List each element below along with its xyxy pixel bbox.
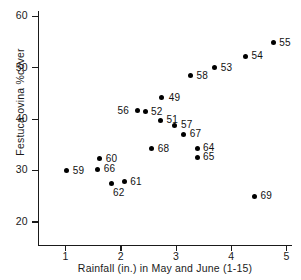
y-axis-title: Festuca ovina %cover	[14, 42, 26, 162]
data-point-label-53: 53	[221, 62, 233, 73]
data-point-label-69: 69	[260, 190, 272, 201]
data-point-68	[149, 146, 154, 151]
data-point-label-55: 55	[279, 37, 291, 48]
y-tick-label-20: 20	[2, 215, 28, 227]
y-axis-line	[38, 11, 39, 246]
x-axis-title: Rainfall (in.) in May and June (1-15)	[38, 262, 292, 274]
data-point-label-60: 60	[106, 153, 118, 164]
data-point-56	[135, 108, 140, 113]
data-point-61	[122, 179, 127, 184]
data-point-label-61: 61	[130, 176, 142, 187]
y-tick-label-30: 30	[2, 163, 28, 175]
x-tick-label-1: 1	[56, 250, 76, 262]
data-point-51	[158, 118, 163, 123]
data-point-57	[172, 123, 177, 128]
data-point-label-62: 62	[113, 187, 125, 198]
data-point-67	[181, 132, 186, 137]
data-point-58	[188, 73, 193, 78]
data-point-label-65: 65	[203, 151, 215, 162]
data-point-53	[212, 65, 217, 70]
x-tick-label-2: 2	[111, 250, 131, 262]
y-tick-30	[32, 170, 38, 171]
data-point-66	[95, 167, 100, 172]
data-point-label-59: 59	[73, 165, 85, 176]
data-point-52	[143, 109, 148, 114]
data-point-label-67: 67	[190, 128, 202, 139]
x-axis-line	[38, 245, 292, 246]
y-tick-60	[32, 16, 38, 17]
data-point-55	[271, 40, 276, 45]
y-tick-label-60: 60	[2, 9, 28, 21]
data-point-label-52: 52	[151, 106, 163, 117]
data-point-64	[195, 146, 200, 151]
data-point-label-56: 56	[117, 105, 129, 116]
data-point-label-58: 58	[196, 70, 208, 81]
plot-area: 2030405060 12345 59606662615652685149576…	[0, 0, 301, 280]
data-point-69	[252, 194, 257, 199]
y-tick-40	[32, 119, 38, 120]
data-point-49	[159, 95, 164, 100]
data-point-62	[109, 181, 114, 186]
data-point-label-54: 54	[252, 50, 264, 61]
y-tick-20	[32, 221, 38, 222]
data-point-65	[195, 155, 200, 160]
x-tick-label-5: 5	[276, 250, 296, 262]
data-point-59	[64, 168, 69, 173]
x-tick-label-4: 4	[221, 250, 241, 262]
data-point-label-68: 68	[158, 143, 170, 154]
data-point-label-49: 49	[169, 92, 181, 103]
data-point-54	[243, 54, 248, 59]
scatter-plot-figure: 2030405060 12345 59606662615652685149576…	[0, 0, 301, 280]
y-tick-50	[32, 67, 38, 68]
x-tick-label-3: 3	[166, 250, 186, 262]
data-point-60	[97, 156, 102, 161]
data-point-label-66: 66	[104, 163, 116, 174]
